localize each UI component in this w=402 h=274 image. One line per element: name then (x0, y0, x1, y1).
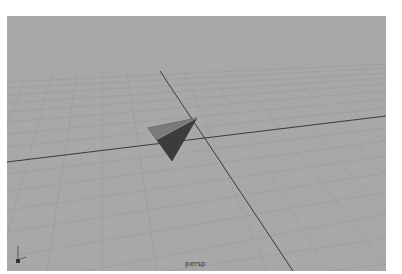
grid-canvas (7, 16, 386, 271)
perspective-viewport[interactable]: persp (7, 16, 386, 271)
view-axis-gizmo (10, 242, 30, 266)
camera-name-label: persp (185, 260, 206, 268)
